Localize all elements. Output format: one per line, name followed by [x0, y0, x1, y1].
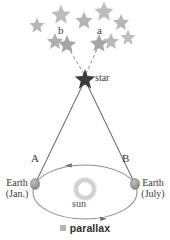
sight-line-from-b: [85, 80, 135, 183]
background-star: [113, 14, 129, 30]
target-star-icon: [75, 69, 95, 89]
label-earth-january-line2: (Jan.): [0, 188, 34, 199]
apparent-position-star-a: [90, 34, 108, 52]
figure-caption: parallax: [0, 222, 170, 234]
label-point-a: A: [31, 153, 39, 164]
caption-bullet-icon: [60, 225, 66, 231]
label-earth-july-line2: (July): [136, 188, 170, 199]
background-star: [121, 30, 136, 45]
background-star: [76, 12, 93, 29]
background-star: [30, 18, 45, 33]
label-earth-january: Earth (Jan.): [0, 177, 34, 199]
dashed-sight-lines: [69, 47, 99, 74]
label-sun: sun: [72, 199, 86, 209]
background-star: [95, 2, 114, 21]
label-earth-july: Earth (July): [136, 177, 170, 199]
caption-text: parallax: [70, 222, 111, 234]
background-star: [52, 5, 71, 24]
dashed-line-to-a: [86, 47, 98, 74]
parallax-diagram: b a star A B sun Earth (Jan.) Earth (Jul…: [0, 0, 170, 240]
apparent-position-star-b: [58, 35, 76, 53]
label-point-b: B: [122, 153, 129, 164]
background-star-field: [30, 2, 136, 53]
label-earth-july-line1: Earth: [136, 177, 170, 188]
label-target-star: star: [95, 73, 109, 83]
label-apparent-position-b: b: [58, 25, 64, 36]
label-earth-january-line1: Earth: [0, 177, 34, 188]
label-apparent-position-a: a: [97, 25, 102, 36]
dashed-line-to-b: [69, 48, 85, 74]
parallax-sight-lines: [36, 80, 135, 183]
sight-line-from-a: [36, 80, 86, 183]
